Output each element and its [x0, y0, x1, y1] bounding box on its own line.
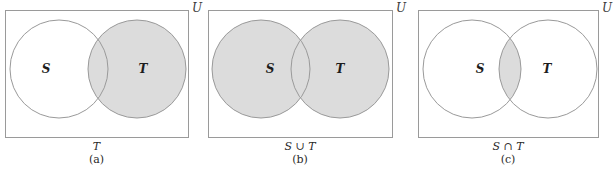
universe-rect-c — [419, 11, 599, 138]
caption-expression-b: S ∪ T — [208, 141, 392, 154]
venn-panel-c: USTS ∩ T(c) — [0, 0, 614, 172]
venn-panel-a: USTT(a) — [0, 0, 614, 172]
caption-tag-c: (c) — [418, 154, 598, 167]
set-s-circle-a — [10, 20, 108, 118]
venn-panel-b: USTS ∪ T(b) — [0, 0, 614, 172]
set-label-t-c: T — [543, 63, 552, 75]
caption-a: T(a) — [5, 141, 188, 167]
universe-label-a: U — [192, 2, 202, 14]
shade-left-circle-b — [212, 20, 310, 118]
set-label-t-b: T — [336, 63, 345, 75]
venn-panel-a-graphic — [0, 0, 614, 172]
universe-rect-b — [209, 11, 393, 138]
venn-panel-b-graphic — [0, 0, 614, 172]
caption-expression-c: S ∩ T — [418, 141, 598, 154]
venn-figure: USTT(a)USTS ∪ T(b)USTS ∩ T(c) — [0, 0, 614, 172]
caption-tag-a: (a) — [5, 154, 188, 167]
set-label-s-b: S — [266, 63, 275, 75]
caption-tag-b: (b) — [208, 154, 392, 167]
caption-c: S ∩ T(c) — [418, 141, 598, 167]
set-label-s-c: S — [476, 63, 485, 75]
caption-b: S ∪ T(b) — [208, 141, 392, 167]
caption-expression-a: T — [5, 141, 188, 154]
set-s-circle-c — [423, 20, 521, 118]
venn-panel-c-graphic — [0, 0, 614, 172]
universe-label-b: U — [396, 2, 406, 14]
set-t-circle-a — [88, 20, 186, 118]
set-label-s-a: S — [42, 63, 51, 75]
universe-rect-a — [6, 11, 189, 138]
set-s-circle-b — [212, 20, 310, 118]
shade-right-circle-b — [291, 20, 389, 118]
set-label-t-a: T — [139, 63, 148, 75]
set-t-circle-b — [291, 20, 389, 118]
shade-intersection-c — [499, 20, 597, 118]
set-t-circle-c — [499, 20, 597, 118]
shade-right-circle-a — [88, 20, 186, 118]
universe-label-c: U — [602, 2, 612, 14]
